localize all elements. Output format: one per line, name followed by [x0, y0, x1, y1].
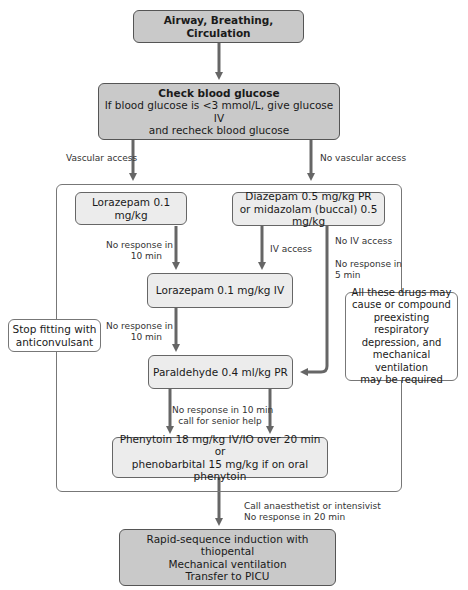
- label-no-iv-access: No IV access: [335, 236, 392, 247]
- warning-note-box: All these drugs may cause or compound pr…: [345, 292, 458, 381]
- glucose-box: Check blood glucose If blood glucose is …: [98, 83, 340, 140]
- glucose-heading: Check blood glucose: [158, 87, 279, 100]
- label-vascular-access: Vascular access: [66, 153, 137, 164]
- lorazepam-iv-box: Lorazepam 0.1 mg/kg IV: [147, 273, 293, 308]
- rsi-line1: Rapid-sequence induction with thiopental: [120, 533, 335, 558]
- label-no-response-10-b: No response in 10 min: [106, 321, 162, 343]
- stop-fitting-line1: Stop fitting with: [13, 323, 97, 336]
- phenytoin-box: Phenytoin 18 mg/kg IV/IO over 20 min or …: [112, 437, 328, 478]
- stop-fitting-box: Stop fitting with anticonvulsant: [8, 319, 101, 352]
- rsi-box: Rapid-sequence induction with thiopental…: [119, 529, 336, 586]
- paraldehyde-box: Paraldehyde 0.4 ml/kg PR: [148, 355, 293, 389]
- label-anaesthetist: Call anaesthetist or intensivist No resp…: [244, 501, 381, 523]
- stop-fitting-line2: anticonvulsant: [16, 336, 93, 349]
- lorazepam-iv-text: Lorazepam 0.1 mg/kg IV: [156, 284, 284, 297]
- label-iv-access: IV access: [270, 244, 312, 255]
- diazepam-line2: or midazolam (buccal) 0.5 mg/kg: [233, 203, 384, 228]
- phenytoin-line1: Phenytoin 18 mg/kg IV/IO over 20 min or: [113, 433, 327, 458]
- lorazepam-first-box: Lorazepam 0.1 mg/kg: [75, 192, 187, 225]
- label-no-vascular-access: No vascular access: [320, 153, 406, 164]
- label-senior-help: No response in 10 min call for senior he…: [172, 405, 268, 427]
- paraldehyde-text: Paraldehyde 0.4 ml/kg PR: [153, 366, 288, 379]
- abc-box: Airway, Breathing, Circulation: [133, 10, 304, 43]
- diazepam-box: Diazepam 0.5 mg/kg PR or midazolam (bucc…: [232, 192, 385, 226]
- glucose-line1: If blood glucose is <3 mmol/L, give gluc…: [99, 99, 339, 124]
- label-no-response-10-a: No response in 10 min: [106, 240, 162, 262]
- rsi-line3: Transfer to PICU: [186, 570, 270, 583]
- phenytoin-line2: phenobarbital 15 mg/kg if on oral phenyt…: [113, 458, 327, 483]
- label-no-response-5: No response in 5 min: [335, 259, 402, 281]
- diazepam-line1: Diazepam 0.5 mg/kg PR: [245, 190, 371, 203]
- rsi-line2: Mechanical ventilation: [168, 558, 286, 571]
- abc-text: Airway, Breathing, Circulation: [134, 14, 303, 39]
- glucose-line2: and recheck blood glucose: [149, 124, 290, 137]
- lorazepam-first-text: Lorazepam 0.1 mg/kg: [76, 196, 186, 221]
